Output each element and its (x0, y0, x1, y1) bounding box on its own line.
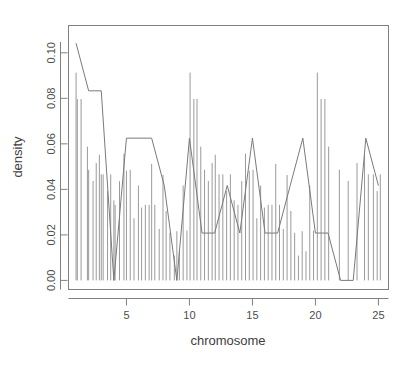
y-tick-label: 0.00 (45, 270, 57, 291)
plot-canvas: 0.000.020.040.060.080.10 510152025 chrom… (0, 0, 404, 370)
x-axis-title: chromosome (190, 333, 265, 348)
x-tick-label: 15 (246, 309, 258, 321)
y-tick-label: 0.02 (45, 224, 57, 245)
y-tick-label: 0.08 (45, 88, 57, 109)
x-tick-label: 10 (183, 309, 195, 321)
density-curve (76, 43, 378, 280)
x-axis-ticks (126, 299, 378, 306)
y-tick-label: 0.06 (45, 133, 57, 154)
x-tick-label: 20 (309, 309, 321, 321)
x-tick-label: 5 (123, 309, 129, 321)
rug-spikes (76, 73, 380, 281)
density-plot-figure: 0.000.020.040.060.080.10 510152025 chrom… (0, 0, 404, 370)
y-axis-ticks (61, 53, 68, 281)
y-axis-tick-labels: 0.000.020.040.060.080.10 (45, 42, 57, 291)
y-tick-label: 0.04 (45, 179, 57, 200)
y-axis-title: density (10, 136, 25, 178)
x-axis-tick-labels: 510152025 (123, 309, 384, 321)
y-tick-label: 0.10 (45, 42, 57, 63)
x-tick-label: 25 (372, 309, 384, 321)
